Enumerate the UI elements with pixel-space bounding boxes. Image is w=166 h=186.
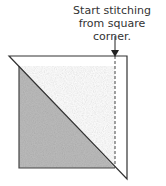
quilt-diagram [0, 0, 166, 186]
